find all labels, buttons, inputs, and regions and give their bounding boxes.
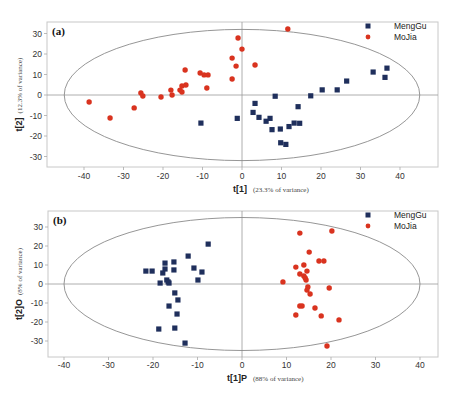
data-point-circle	[107, 115, 112, 120]
x-tick-label: -10	[196, 171, 209, 181]
data-point-square	[160, 270, 165, 275]
data-point-square	[235, 116, 240, 121]
data-point-circle	[336, 317, 341, 322]
data-point-circle	[285, 26, 290, 31]
panel-label: (a)	[52, 25, 65, 38]
data-point-square	[283, 142, 288, 147]
x-tick-label: -30	[117, 171, 130, 181]
data-point-square	[186, 253, 191, 258]
data-point-circle	[321, 258, 326, 263]
data-point-square	[267, 116, 272, 121]
data-point-square	[171, 267, 176, 272]
y-tick-label: 30	[34, 222, 44, 232]
legend-marker-circle-icon	[366, 35, 371, 40]
data-point-square	[382, 75, 387, 80]
x-tick-label: 30	[371, 360, 381, 370]
x-axis-label: t[1]P(88% of variance)	[227, 373, 304, 383]
data-point-square	[344, 78, 349, 83]
data-point-square	[292, 120, 297, 125]
data-point-square	[256, 115, 261, 120]
y-tick-label: -30	[31, 336, 44, 346]
legend-label: MengGu	[394, 21, 427, 31]
data-point-circle	[307, 291, 312, 296]
data-point-circle	[280, 279, 285, 284]
data-point-square	[295, 104, 300, 109]
data-point-square	[252, 101, 257, 106]
x-tick-label: -20	[157, 171, 170, 181]
data-point-square	[286, 124, 291, 129]
y-tick-label: -30	[30, 152, 43, 162]
data-point-square	[150, 268, 155, 273]
data-point-circle	[182, 67, 187, 72]
data-point-circle	[324, 343, 329, 348]
data-point-square	[273, 94, 278, 99]
data-point-square	[250, 110, 255, 115]
x-tick-label: -30	[102, 360, 115, 370]
data-point-square	[182, 340, 187, 345]
x-tick-label: 30	[356, 171, 366, 181]
legend-marker-circle-icon	[366, 224, 371, 229]
data-point-square	[206, 242, 211, 247]
y-tick-label: 30	[33, 29, 43, 39]
data-point-circle	[235, 35, 240, 40]
x-tick-label: -40	[78, 171, 91, 181]
data-point-square	[175, 297, 180, 302]
data-point-square	[174, 311, 179, 316]
x-tick-label: 0	[240, 360, 245, 370]
data-point-circle	[229, 55, 234, 60]
y-tick-label: -20	[31, 317, 44, 327]
data-point-square	[269, 127, 274, 132]
data-point-circle	[306, 249, 311, 254]
data-point-square	[278, 126, 283, 131]
data-point-circle	[169, 92, 174, 97]
data-point-circle	[168, 87, 173, 92]
data-point-circle	[86, 99, 91, 104]
data-point-circle	[183, 82, 188, 87]
score-plot-b: -40-30-20-100102030403020100-10-20-30(b)…	[14, 210, 438, 383]
pca-score-plots: -40-30-20-100102030403020100-10-20-30(a)…	[0, 0, 453, 398]
data-point-circle	[304, 268, 309, 273]
data-point-circle	[158, 94, 163, 99]
data-point-circle	[179, 89, 184, 94]
data-point-square	[195, 277, 200, 282]
data-point-circle	[329, 228, 334, 233]
data-point-square	[278, 140, 283, 145]
y-tick-label: -20	[30, 131, 43, 141]
data-point-circle	[131, 105, 136, 110]
x-tick-label: 40	[395, 171, 405, 181]
data-point-circle	[327, 285, 332, 290]
legend-marker-square-icon	[366, 24, 371, 29]
x-tick-label: -10	[191, 360, 204, 370]
data-point-circle	[293, 312, 298, 317]
data-point-circle	[293, 264, 298, 269]
x-tick-label: 10	[277, 171, 287, 181]
data-point-square	[143, 268, 148, 273]
data-point-square	[199, 269, 204, 274]
data-point-square	[371, 69, 376, 74]
plot-frame	[47, 22, 438, 167]
data-point-circle	[140, 93, 145, 98]
x-tick-label: 0	[240, 171, 245, 181]
legend-marker-square-icon	[366, 213, 371, 218]
data-point-circle	[297, 230, 302, 235]
x-tick-label: 40	[415, 360, 425, 370]
y-tick-label: 20	[33, 49, 43, 59]
y-tick-label: -10	[31, 298, 44, 308]
x-axis-label: t[1](23.3% of variance)	[233, 184, 309, 194]
legend-label: MengGu	[394, 210, 427, 220]
panel-label: (b)	[53, 214, 67, 227]
y-tick-label: 10	[34, 260, 44, 270]
data-point-square	[384, 66, 389, 71]
x-tick-label: 20	[316, 171, 326, 181]
data-point-square	[158, 280, 163, 285]
data-point-square	[320, 87, 325, 92]
data-point-circle	[229, 76, 234, 81]
data-point-circle	[319, 313, 324, 318]
data-point-circle	[239, 46, 244, 51]
data-point-square	[191, 265, 196, 270]
y-axis-label: t[2](12.3% of variance)	[14, 57, 24, 131]
x-tick-label: 10	[282, 360, 292, 370]
y-tick-label: 20	[34, 241, 44, 251]
data-point-square	[162, 261, 167, 266]
data-point-square	[171, 259, 176, 264]
